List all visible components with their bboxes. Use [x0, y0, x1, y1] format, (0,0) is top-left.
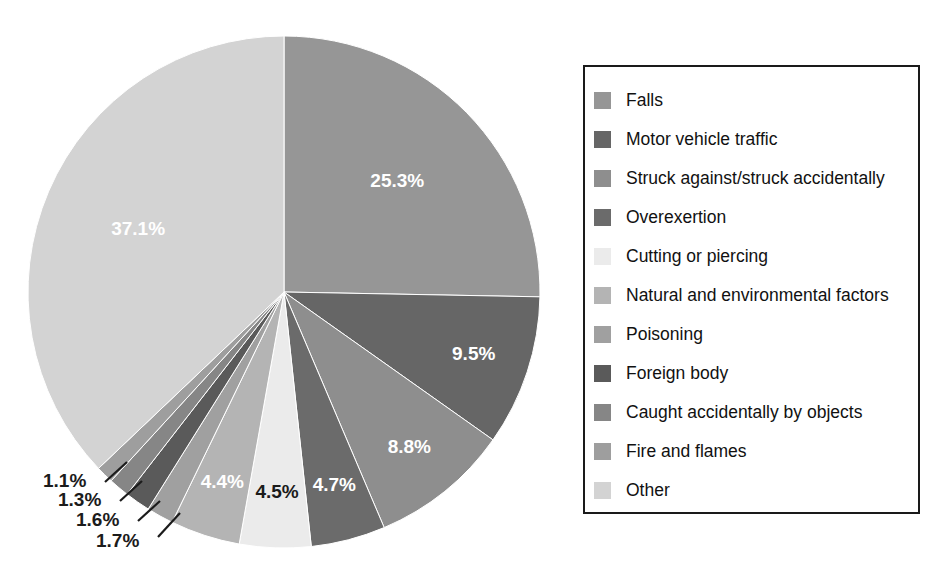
legend-item-label: Cutting or piercing — [626, 248, 768, 266]
legend-item-label: Poisoning — [626, 326, 703, 344]
legend-item[interactable]: Struck against/struck accidentally — [594, 159, 918, 198]
legend-box: FallsMotor vehicle trafficStruck against… — [583, 65, 920, 514]
pie-slice-value-label: 4.5% — [255, 481, 298, 502]
pie-slice-callout-label: 1.3% — [58, 489, 101, 510]
legend-item-label: Foreign body — [626, 365, 728, 383]
legend-color-swatch — [594, 443, 611, 460]
pie-chart-figure: 25.3%9.5%8.8%4.7%4.5%4.4%37.1% 1.1%1.3%1… — [0, 0, 944, 584]
pie-slice-callout-label: 1.1% — [43, 470, 86, 491]
legend-item[interactable]: Motor vehicle traffic — [594, 120, 918, 159]
legend-item[interactable]: Foreign body — [594, 354, 918, 393]
pie-slice-value-label: 25.3% — [370, 170, 424, 191]
legend-color-swatch — [594, 170, 611, 187]
legend-item[interactable]: Natural and environmental factors — [594, 276, 918, 315]
legend-item-label: Overexertion — [626, 209, 726, 227]
pie-slices-group — [28, 36, 540, 548]
legend-color-swatch — [594, 92, 611, 109]
legend-color-swatch — [594, 482, 611, 499]
legend-color-swatch — [594, 287, 611, 304]
legend-item-label: Fire and flames — [626, 443, 747, 461]
pie-slice-value-label: 37.1% — [111, 218, 165, 239]
pie-slice-callout-label: 1.6% — [76, 509, 119, 530]
legend-item[interactable]: Poisoning — [594, 315, 918, 354]
legend-color-swatch — [594, 404, 611, 421]
legend-color-swatch — [594, 365, 611, 382]
legend-color-swatch — [594, 326, 611, 343]
pie-slice-value-label: 4.7% — [313, 474, 356, 495]
legend-item-label: Natural and environmental factors — [626, 287, 889, 305]
legend-item[interactable]: Fire and flames — [594, 432, 918, 471]
legend-item[interactable]: Falls — [594, 81, 918, 120]
legend-item-label: Falls — [626, 92, 663, 110]
legend-color-swatch — [594, 248, 611, 265]
legend-item-label: Motor vehicle traffic — [626, 131, 777, 149]
legend-color-swatch — [594, 131, 611, 148]
legend-item[interactable]: Cutting or piercing — [594, 237, 918, 276]
pie-slice[interactable] — [284, 36, 540, 297]
pie-slice-value-label: 9.5% — [452, 343, 495, 364]
legend-item[interactable]: Caught accidentally by objects — [594, 393, 918, 432]
pie-slice-value-label: 8.8% — [388, 436, 431, 457]
legend-item[interactable]: Overexertion — [594, 198, 918, 237]
legend-item-label: Other — [626, 482, 670, 500]
legend-item-label: Struck against/struck accidentally — [626, 170, 885, 188]
legend-color-swatch — [594, 209, 611, 226]
legend-item-label: Caught accidentally by objects — [626, 404, 862, 422]
pie-slice-callout-label: 1.7% — [96, 530, 139, 551]
legend-item[interactable]: Other — [594, 471, 918, 510]
pie-slice-value-label: 4.4% — [201, 471, 244, 492]
